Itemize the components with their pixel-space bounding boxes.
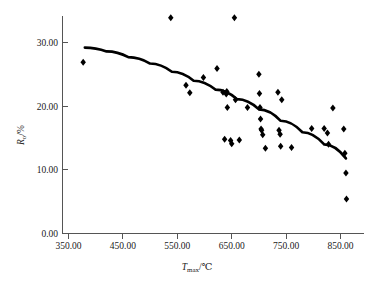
y-tick-marks	[63, 43, 69, 234]
data-point	[214, 65, 219, 72]
scatter-plot: 30.00 20.00 10.00 0.00 350.00 450.00 550…	[0, 0, 376, 290]
data-point	[321, 125, 326, 132]
data-point	[232, 14, 237, 21]
data-point	[279, 96, 284, 103]
data-point	[222, 136, 227, 143]
trend-curve	[85, 48, 346, 159]
x-tick-label-350: 350.00	[55, 241, 81, 251]
y-tick-label-20: 20.00	[37, 102, 59, 112]
x-tick-marks	[69, 234, 341, 240]
x-tick-label-450: 450.00	[110, 241, 136, 251]
axis-lines	[63, 16, 365, 234]
data-point	[341, 126, 346, 133]
data-point	[330, 105, 335, 112]
data-point	[225, 104, 230, 111]
data-point	[289, 144, 294, 151]
data-point	[278, 143, 283, 150]
y-tick-label-0: 0.00	[41, 229, 58, 239]
data-point	[275, 89, 280, 96]
y-tick-label-30: 30.00	[37, 38, 59, 48]
x-tick-label-650: 650.00	[219, 241, 245, 251]
data-point	[343, 170, 348, 177]
data-point	[325, 129, 330, 136]
y-tick-label-10: 10.00	[37, 165, 59, 175]
data-point	[80, 59, 85, 66]
x-tick-label-850: 850.00	[327, 241, 353, 251]
y-axis-title: Ro/%	[16, 125, 28, 146]
x-axis-title: Tmax/℃	[182, 262, 213, 274]
data-points-group	[80, 14, 349, 202]
data-point	[245, 104, 250, 111]
y-axis-title-unit: /%	[16, 125, 26, 136]
chart-figure: 30.00 20.00 10.00 0.00 350.00 450.00 550…	[0, 0, 376, 290]
data-point	[344, 196, 349, 203]
data-point	[237, 136, 242, 143]
data-point	[168, 14, 173, 21]
x-axis-title-unit: /℃	[199, 262, 213, 272]
y-tick-labels: 30.00 20.00 10.00 0.00	[37, 38, 59, 239]
data-point	[187, 89, 192, 96]
data-point	[183, 82, 188, 89]
data-point	[258, 115, 263, 122]
data-point	[201, 74, 206, 81]
data-point	[257, 90, 262, 97]
data-point	[256, 71, 261, 78]
x-tick-label-750: 750.00	[273, 241, 299, 251]
x-tick-label-550: 550.00	[164, 241, 190, 251]
x-tick-labels: 350.00 450.00 550.00 650.00 750.00 850.0…	[55, 241, 353, 251]
data-point	[263, 145, 268, 152]
data-point	[309, 125, 314, 132]
x-axis-title-sub: max	[187, 266, 200, 274]
